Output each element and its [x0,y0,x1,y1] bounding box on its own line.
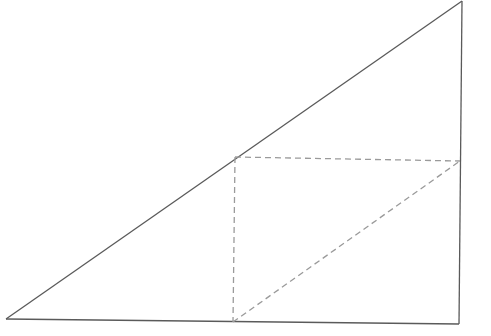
triangle [6,1,462,324]
diagonal-dashed-line [233,161,460,322]
vertical-dashed-line [233,157,235,322]
horizontal-dashed-line [235,157,460,161]
right-side [459,1,462,324]
inscribed-dashed-lines [233,157,460,322]
geometry-diagram [0,0,491,336]
